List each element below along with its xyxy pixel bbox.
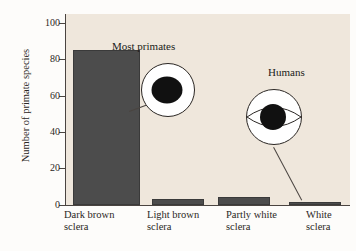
y-tick-0	[59, 205, 66, 206]
bar-light-brown-sclera	[152, 199, 204, 205]
x-label-line-1: White	[306, 209, 332, 221]
bar-partly-white-sclera	[218, 197, 270, 205]
bar-dark-brown-sclera	[73, 50, 140, 205]
x-label-light-brown-sclera: Light brown sclera	[147, 209, 199, 233]
x-label-dark-brown-sclera: Dark brown sclera	[64, 209, 114, 233]
annotation-most-primates: Most primates	[112, 40, 175, 52]
x-label-line-1: Partly white	[226, 209, 277, 221]
x-label-partly-white-sclera: Partly white sclera	[226, 209, 277, 233]
x-label-line-2: sclera	[226, 221, 277, 233]
eye-white-sclera-icon	[245, 88, 303, 146]
bar-chart-figure: 0 20 40 60 80 100 Number of primate spec…	[0, 0, 356, 251]
eye-dark-sclera-icon	[140, 62, 196, 118]
bar-white-sclera	[289, 202, 341, 205]
x-axis-line	[65, 205, 350, 206]
y-tick-100	[59, 23, 66, 24]
y-tick-label-0: 0	[20, 200, 60, 210]
y-axis-line	[65, 14, 66, 206]
x-label-line-2: sclera	[147, 221, 199, 233]
x-label-line-1: Dark brown	[64, 209, 114, 221]
y-tick-40	[59, 132, 66, 133]
y-tick-80	[59, 59, 66, 60]
y-axis-title: Number of primate species	[20, 11, 31, 201]
x-label-white-sclera: White sclera	[306, 209, 332, 233]
y-tick-20	[59, 168, 66, 169]
x-label-line-2: sclera	[306, 221, 332, 233]
annotation-humans: Humans	[268, 66, 305, 78]
y-tick-60	[59, 96, 66, 97]
x-label-line-1: Light brown	[147, 209, 199, 221]
x-label-line-2: sclera	[64, 221, 114, 233]
